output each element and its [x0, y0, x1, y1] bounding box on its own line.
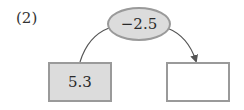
input-box: 5.3 [48, 62, 112, 102]
input-to-operator-line [80, 28, 109, 62]
operator-to-output-arrow [167, 28, 196, 61]
output-answer-box[interactable] [166, 62, 230, 102]
operator-value: −2.5 [121, 15, 157, 33]
operator-ellipse: −2.5 [107, 7, 171, 41]
input-value: 5.3 [68, 73, 92, 91]
